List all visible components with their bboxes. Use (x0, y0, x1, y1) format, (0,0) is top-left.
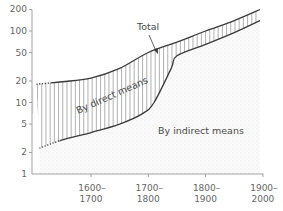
y-tick-label: 1 (21, 169, 27, 179)
x-tick-label: 1800 (137, 194, 160, 204)
x-tick-label: 1700 (80, 194, 103, 204)
y-tick-label: 100 (10, 26, 27, 36)
y-tick-label: 200 (10, 4, 27, 14)
x-tick-label: 2000 (251, 194, 274, 204)
indirect-region-label: By indirect means (158, 125, 244, 136)
y-tick-label: 10 (16, 98, 28, 108)
chart: 125102050100200 1600–17001700–18001800–1… (0, 0, 283, 211)
x-tick-label: 1800– (193, 183, 221, 193)
y-tick-label: 50 (16, 48, 28, 58)
total-arrowhead (154, 48, 158, 54)
y-tick-label: 20 (16, 76, 28, 86)
y-tick-label: 2 (21, 147, 27, 157)
x-tick-label: 1700– (136, 183, 164, 193)
indirect-region-fill (39, 21, 260, 174)
x-tick-label: 1600– (78, 183, 106, 193)
y-axis: 125102050100200 (10, 4, 32, 179)
x-tick-label: 1900– (250, 183, 278, 193)
x-tick-label: 1900 (194, 194, 217, 204)
x-axis: 1600–17001700–18001800–19001900–2000 (32, 174, 278, 204)
total-label: Total (136, 21, 159, 32)
y-tick-label: 5 (21, 119, 27, 129)
total-arrow (149, 35, 156, 51)
